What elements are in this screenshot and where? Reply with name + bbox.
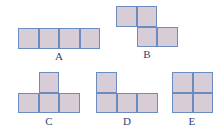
shape-e-cell — [172, 72, 193, 93]
shape-b-cell — [116, 6, 137, 27]
shape-label-e: E — [182, 115, 202, 127]
shape-c-cell — [59, 93, 80, 114]
tetromino-figure: ABCDE — [0, 0, 224, 134]
shape-d-cell — [137, 93, 158, 114]
shape-b-cell — [137, 27, 158, 48]
shape-c-cell — [39, 72, 60, 93]
shape-b-cell — [157, 27, 178, 48]
shape-label-a: A — [49, 50, 69, 62]
shape-d-cell — [96, 72, 117, 93]
shape-a-cell — [39, 28, 60, 49]
shape-label-d: D — [117, 115, 137, 127]
shape-a-cell — [80, 28, 101, 49]
shape-label-b: B — [137, 48, 157, 60]
shape-d-cell — [96, 93, 117, 114]
shape-label-c: C — [39, 115, 59, 127]
shape-c-cell — [18, 93, 39, 114]
shape-e-cell — [193, 72, 214, 93]
shape-d-cell — [117, 93, 138, 114]
shape-e-cell — [172, 93, 193, 114]
shape-c-cell — [39, 93, 60, 114]
shape-b-cell — [137, 6, 158, 27]
shape-e-cell — [193, 93, 214, 114]
shape-a-cell — [18, 28, 39, 49]
shape-a-cell — [59, 28, 80, 49]
